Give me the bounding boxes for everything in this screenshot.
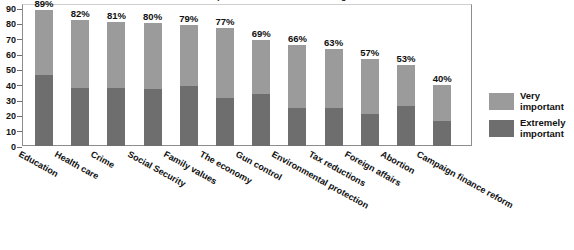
- bar-segment-extremely-important[interactable]: [397, 106, 415, 146]
- bar-value-label: 66%: [288, 33, 307, 44]
- bar-segment-extremely-important[interactable]: [288, 108, 306, 146]
- bar-stack[interactable]: 40%: [433, 85, 451, 146]
- y-axis: 0102030405060708090: [0, 4, 22, 147]
- bar-segment-very-important[interactable]: [325, 49, 343, 107]
- legend-item[interactable]: Extremelyimportant: [489, 119, 574, 146]
- bar-stack[interactable]: 82%: [71, 20, 89, 146]
- bar-stack[interactable]: 79%: [180, 25, 198, 146]
- y-axis-tick-label: 80: [6, 19, 16, 29]
- x-axis-label: Education: [17, 149, 60, 179]
- y-axis-tick-label: 50: [6, 65, 16, 75]
- legend-label-line2: important: [520, 128, 565, 139]
- bar-segment-extremely-important[interactable]: [107, 88, 125, 146]
- bar-stack[interactable]: 69%: [252, 40, 270, 146]
- bar-stack[interactable]: 63%: [325, 49, 343, 146]
- y-axis-tick-label: 10: [6, 127, 16, 137]
- bar-value-label: 80%: [143, 11, 162, 22]
- bar-value-label: 40%: [433, 73, 452, 84]
- bar-segment-extremely-important[interactable]: [252, 94, 270, 146]
- legend-color-swatch: [489, 93, 514, 110]
- chart-container: Importance of issues in deciding vote 01…: [0, 0, 574, 250]
- bar-segment-extremely-important[interactable]: [361, 114, 379, 146]
- bar-segment-very-important[interactable]: [71, 20, 89, 87]
- bar-stack[interactable]: 80%: [144, 23, 162, 146]
- legend-item[interactable]: Veryimportant: [489, 92, 574, 119]
- bar-segment-very-important[interactable]: [397, 65, 415, 106]
- bar-segment-extremely-important[interactable]: [433, 121, 451, 146]
- legend-label-line1: Very: [520, 90, 564, 101]
- bar-segment-extremely-important[interactable]: [180, 86, 198, 146]
- bar-segment-extremely-important[interactable]: [144, 89, 162, 146]
- bar-value-label: 69%: [252, 28, 271, 39]
- legend-label-line2: important: [520, 101, 564, 112]
- y-axis-tick-label: 90: [6, 4, 16, 14]
- bar-segment-extremely-important[interactable]: [71, 88, 89, 146]
- y-axis-tick-mark: [17, 147, 22, 148]
- bar-segment-very-important[interactable]: [107, 22, 125, 88]
- bar-segment-extremely-important[interactable]: [35, 75, 53, 146]
- bar-value-label: 53%: [396, 53, 415, 64]
- x-axis-label: Campaign finance reform: [415, 149, 515, 210]
- bar-segment-very-important[interactable]: [433, 85, 451, 122]
- bar-stack[interactable]: 89%: [35, 10, 53, 146]
- bar-stack[interactable]: 77%: [216, 28, 234, 146]
- x-axis-category-labels: EducationHealth careCrimeSocial Security…: [22, 149, 472, 250]
- y-axis-tick-label: 20: [6, 111, 16, 121]
- bar-value-label: 82%: [71, 8, 90, 19]
- y-axis-tick-label: 30: [6, 96, 16, 106]
- bar-value-label: 57%: [360, 47, 379, 58]
- y-axis-tick-label: 0: [11, 142, 16, 152]
- bar-segment-very-important[interactable]: [288, 45, 306, 108]
- bar-segment-extremely-important[interactable]: [325, 108, 343, 146]
- bar-segment-very-important[interactable]: [144, 23, 162, 89]
- legend-label: Veryimportant: [520, 90, 564, 112]
- plot-area: 89%82%81%80%79%77%69%66%63%57%53%40%: [22, 4, 472, 146]
- bar-value-label: 77%: [215, 16, 234, 27]
- chart-title: Importance of issues in deciding vote: [0, 0, 574, 1]
- bar-value-label: 89%: [34, 0, 53, 9]
- bar-segment-very-important[interactable]: [216, 28, 234, 99]
- bar-stack[interactable]: 53%: [397, 65, 415, 146]
- x-axis-label: Crime: [90, 149, 117, 170]
- bar-stack[interactable]: 81%: [107, 22, 125, 146]
- chart-legend: VeryimportantExtremelyimportant: [489, 92, 574, 146]
- y-axis-tick-label: 60: [6, 50, 16, 60]
- bar-value-label: 79%: [179, 13, 198, 24]
- bar-segment-extremely-important[interactable]: [216, 98, 234, 146]
- y-axis-tick-label: 70: [6, 35, 16, 45]
- legend-color-swatch: [489, 120, 514, 137]
- bar-stack[interactable]: 66%: [288, 45, 306, 146]
- bar-value-label: 81%: [107, 10, 126, 21]
- y-axis-tick-label: 40: [6, 81, 16, 91]
- bar-segment-very-important[interactable]: [180, 25, 198, 86]
- bar-group: 89%82%81%80%79%77%69%66%63%57%53%40%: [22, 4, 472, 146]
- bar-segment-very-important[interactable]: [361, 59, 379, 114]
- bar-stack[interactable]: 57%: [361, 59, 379, 146]
- bar-segment-very-important[interactable]: [252, 40, 270, 94]
- legend-label: Extremelyimportant: [520, 117, 565, 139]
- bar-value-label: 63%: [324, 37, 343, 48]
- legend-label-line1: Extremely: [520, 117, 565, 128]
- bar-segment-very-important[interactable]: [35, 10, 53, 76]
